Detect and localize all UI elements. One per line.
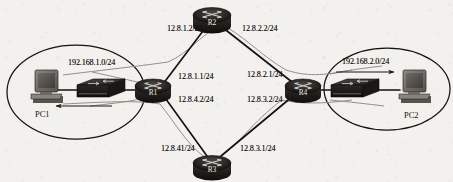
switch-1-icon xyxy=(77,79,125,97)
host-label-pc2: PC2 xyxy=(404,111,418,120)
switch-2-icon xyxy=(331,79,379,97)
subnet-label-lan2: 192.168.2.0/24 xyxy=(342,57,389,66)
topology-graphics xyxy=(0,0,453,182)
interface-label-r4-up: 12.8.2.1/24 xyxy=(247,70,282,79)
interface-label-r2-right: 12.8.2.2/24 xyxy=(242,24,277,33)
subnet-label-lan1: 192.168.1.0/24 xyxy=(68,58,115,67)
router-label-r3: R3 xyxy=(202,165,222,174)
interface-label-r2-left: 12.8.1.2/24 xyxy=(167,24,202,33)
interface-label-r3-left: 12.8.41/24 xyxy=(161,144,195,153)
host-label-pc1: PC1 xyxy=(35,110,49,119)
pc2-icon xyxy=(399,70,431,103)
interface-label-r1-down: 12.8.4.2/24 xyxy=(178,95,213,104)
interface-label-r4-down: 12.8.3.2/24 xyxy=(247,95,282,104)
interface-label-r3-right: 12.8.3.1/24 xyxy=(240,144,275,153)
network-diagram-canvas: R2 R1 R4 R3 PC1 PC2 192.168.1.0/24 192.1… xyxy=(0,0,453,182)
pc1-icon xyxy=(31,70,63,103)
router-label-r1: R1 xyxy=(143,88,163,97)
router-label-r4: R4 xyxy=(293,88,313,97)
interface-label-r1-up: 12.8.1.1/24 xyxy=(178,72,213,81)
router-label-r2: R2 xyxy=(202,18,222,27)
